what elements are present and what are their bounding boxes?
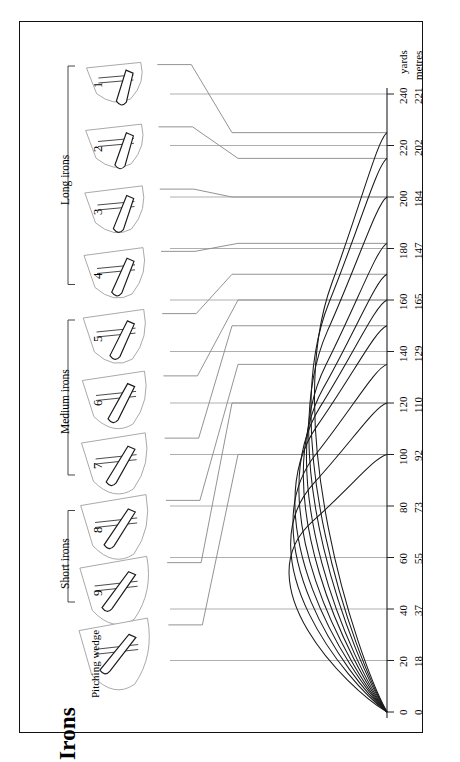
axis-label-yards-80: 80	[398, 502, 409, 513]
leader-line-iron-pw	[168, 455, 387, 625]
axis-label-yards-160: 160	[398, 294, 409, 311]
axis-label-yards-60: 60	[398, 553, 409, 564]
axis-label-yards-0: 0	[398, 710, 409, 716]
axis-label-metres-40: 37	[413, 605, 424, 616]
club-label-iron-7: 7	[92, 463, 105, 469]
axis-caption-yards: yards	[398, 50, 409, 74]
leader-line-iron-7	[165, 326, 387, 438]
leader-line-iron-1	[157, 65, 387, 133]
axis-label-metres-180: 147	[413, 242, 424, 259]
leader-line-iron-3	[160, 189, 387, 197]
axis-label-metres-220: 202	[413, 139, 424, 156]
club-label-iron-4: 4	[92, 272, 105, 278]
axis-label-metres-200: 184	[413, 191, 424, 208]
axis-label-metres-100: 92	[413, 450, 424, 461]
axis-label-yards-100: 100	[398, 448, 409, 465]
axis-caption-metres: metres	[413, 51, 424, 80]
club-label-iron-9: 9	[92, 590, 105, 596]
diagram-frame: Irons 123456789Pitching wedgeLong ironsM…	[19, 21, 423, 733]
axis-label-metres-160: 165	[413, 294, 424, 311]
axis-label-metres-0: 0	[413, 710, 424, 716]
axis-label-yards-20: 20	[398, 656, 409, 667]
axis-label-metres-240: 221	[413, 88, 424, 105]
trajectory-iron-5	[303, 274, 387, 712]
axis-label-metres-60: 55	[413, 553, 424, 564]
axis-label-metres-140: 129	[413, 345, 424, 362]
page-canvas: Irons 123456789Pitching wedgeLong ironsM…	[0, 0, 460, 762]
diagram-artwork	[20, 22, 424, 734]
axis-label-yards-220: 220	[398, 139, 409, 156]
club-label-iron-2: 2	[92, 145, 105, 151]
axis-label-yards-180: 180	[398, 242, 409, 259]
club-label-iron-3: 3	[92, 209, 105, 215]
leader-line-iron-2	[159, 127, 387, 159]
axis-label-yards-40: 40	[398, 605, 409, 616]
group-label-long-irons: Long irons	[60, 155, 72, 205]
leader-line-iron-9	[167, 403, 387, 563]
group-label-short-irons: Short irons	[60, 538, 72, 589]
axis-label-metres-120: 110	[413, 397, 424, 413]
trajectory-iron-7	[295, 326, 387, 712]
axis-label-yards-120: 120	[398, 397, 409, 414]
club-label-iron-8: 8	[92, 526, 105, 532]
axis-label-metres-20: 18	[413, 656, 424, 667]
club-label-iron-1: 1	[92, 82, 105, 88]
axis-label-yards-140: 140	[398, 345, 409, 362]
club-label-iron-pw: Pitching wedge	[90, 629, 101, 697]
club-label-iron-6: 6	[92, 399, 105, 405]
group-label-medium-irons: Medium irons	[60, 369, 72, 434]
axis-label-metres-80: 73	[413, 502, 424, 513]
axis-label-yards-240: 240	[398, 88, 409, 105]
leader-line-iron-8	[166, 364, 387, 500]
trajectory-iron-2	[311, 158, 387, 712]
trajectory-iron-8	[293, 364, 387, 712]
club-label-iron-5: 5	[92, 336, 105, 342]
axis-label-yards-200: 200	[398, 191, 409, 208]
trajectory-iron-1	[314, 133, 387, 712]
leader-line-iron-4	[161, 243, 387, 251]
